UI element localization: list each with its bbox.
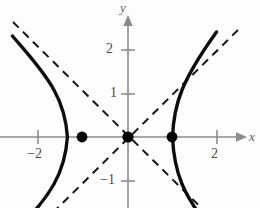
y-axis-label: y (120, 0, 126, 16)
vertex-right-point (167, 132, 178, 143)
tick-label-x-minus-2: −2 (27, 146, 42, 162)
tick-label-y-1: 1 (110, 85, 117, 101)
x-axis-arrow-icon (236, 132, 247, 142)
plot-canvas (0, 0, 260, 208)
y-axis-arrow-icon (123, 15, 133, 26)
vertex-left-point (77, 132, 88, 143)
hyperbola-left-branch-path (13, 36, 68, 208)
hyperbola-graph-figure: y x 2 1 −1 −2 2 (0, 0, 260, 208)
x-axis-label: x (249, 129, 255, 145)
hyperbola-right-branch-path (173, 32, 217, 208)
tick-label-x-2: 2 (211, 146, 218, 162)
center-point (122, 131, 133, 142)
tick-label-y-minus-1: −1 (100, 172, 115, 188)
tick-label-y-2: 2 (106, 41, 113, 57)
